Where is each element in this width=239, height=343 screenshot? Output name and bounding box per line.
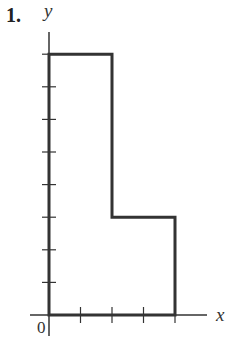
axes xyxy=(30,32,207,336)
diagram-canvas xyxy=(0,0,239,343)
axis-ticks xyxy=(42,54,175,323)
l-shaped-region xyxy=(49,54,175,315)
